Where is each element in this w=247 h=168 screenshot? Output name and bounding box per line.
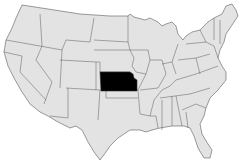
state-kansas [100,72,137,91]
us-map [0,0,247,168]
